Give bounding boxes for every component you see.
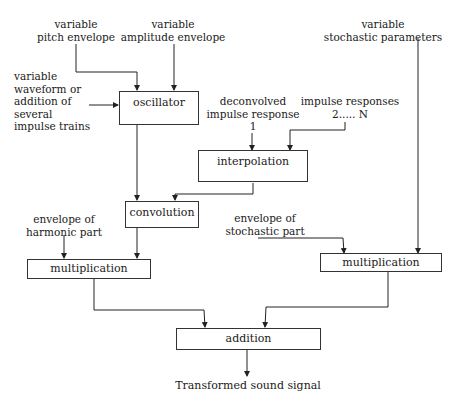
label-line: variable (121, 18, 226, 31)
label-line: variable (37, 18, 115, 31)
harmonic-envelope-label: envelope of harmonic part (26, 213, 102, 238)
label-line: variable (14, 70, 90, 83)
label-line: impulse response (206, 108, 299, 121)
oscillator-block: oscillator (119, 91, 199, 125)
label-line: harmonic part (26, 226, 102, 239)
interpolation-block: interpolation (198, 150, 308, 182)
label-line: deconvolved (206, 95, 299, 108)
stochastic-parameters-label: variable stochastic parameters (324, 18, 442, 43)
impulse-responses-label: impulse responses 2..... N (301, 95, 400, 120)
label-line: envelope of (26, 213, 102, 226)
block-label: multiplication (50, 262, 127, 275)
addition-block: addition (176, 328, 321, 350)
output-label: Transformed sound signal (175, 380, 321, 393)
block-label: addition (226, 332, 272, 345)
multiplication-harmonic-block: multiplication (27, 259, 151, 279)
label-line: 1 (206, 120, 299, 133)
label-line: amplitude envelope (121, 31, 226, 44)
label-line: impulse trains (14, 120, 90, 133)
amplitude-envelope-label: variable amplitude envelope (121, 18, 226, 43)
label-line: pitch envelope (37, 31, 115, 44)
block-label: convolution (130, 206, 195, 219)
label-line: stochastic part (225, 225, 304, 238)
stochastic-envelope-label: envelope of stochastic part (225, 212, 304, 237)
block-label: oscillator (133, 96, 185, 109)
label-line: impulse responses (301, 95, 400, 108)
label-line: 2..... N (301, 108, 400, 121)
label-line: several (14, 108, 90, 121)
multiplication-stochastic-block: multiplication (320, 253, 442, 272)
label-line: addition of (14, 95, 90, 108)
block-label: multiplication (342, 256, 419, 269)
pitch-envelope-label: variable pitch envelope (37, 18, 115, 43)
label-line: stochastic parameters (324, 31, 442, 44)
label-line: envelope of (225, 212, 304, 225)
block-label: interpolation (217, 155, 289, 168)
deconvolved-ir-label: deconvolved impulse response 1 (206, 95, 299, 133)
label-line: waveform or (14, 83, 90, 96)
label-line: variable (324, 18, 442, 31)
waveform-label: variable waveform or addition of several… (14, 70, 90, 133)
convolution-block: convolution (125, 201, 199, 228)
